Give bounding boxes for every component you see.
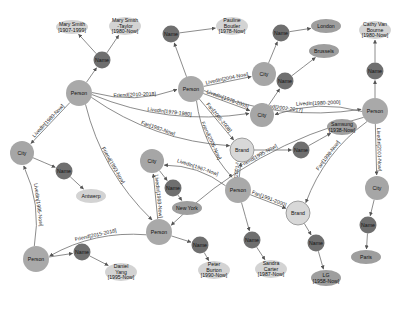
node-name-n1[interactable]: Name (94, 52, 111, 69)
value-label: Antwerp (81, 193, 100, 199)
edges-layer: Friend[2010-2018]LivedIn[1979-1980]Lived… (24, 28, 383, 269)
edge-label: LivedIn[1979-1980] (147, 106, 192, 117)
node-name-n4[interactable]: Name (277, 73, 294, 90)
edge-label: Friend[2010-2018] (113, 90, 156, 98)
name-label: Name (368, 68, 382, 74)
node-city-c1[interactable]: City (252, 62, 276, 86)
edge-n6-v7 (70, 177, 83, 189)
brand-label: Brand (235, 147, 249, 153)
value_dark-label: Samsung[1938-Now] (329, 121, 356, 133)
node-city-c3[interactable]: City (10, 141, 34, 165)
edge-line (24, 166, 37, 246)
name-label: Name (245, 237, 259, 243)
node-value-v7[interactable]: Antwerp (76, 189, 106, 203)
node-value-v2[interactable]: Mary Smith-Taylor[1980-Now] (109, 17, 141, 35)
edge-line (179, 28, 215, 33)
node-name-n11[interactable]: Name (244, 232, 261, 249)
edge-n2-v3 (179, 28, 215, 33)
edge-label: Fan[1982-Now] (141, 119, 177, 137)
node-brand-b2[interactable]: Brand (286, 201, 310, 225)
edge-label: Friend[1993-Now] (101, 146, 127, 185)
edge-c1-n3 (269, 42, 278, 63)
name-label: Name (361, 222, 375, 228)
city-label: City (260, 71, 269, 77)
node-city-c2[interactable]: City (250, 103, 274, 127)
city-label: City (18, 150, 27, 156)
edge-line (50, 234, 147, 256)
node-person-p1[interactable]: Person (66, 80, 92, 106)
node-name-n5[interactable]: Name (367, 63, 384, 80)
node-city-c5[interactable]: City (365, 176, 389, 200)
node-name-n7[interactable]: Name (293, 142, 310, 159)
value-label: Mary Smith[1907-1999] (58, 21, 86, 33)
edge-line (292, 58, 316, 76)
node-city-c4[interactable]: City (140, 149, 164, 173)
node-name-n10[interactable]: Name (192, 237, 209, 254)
edge-label: LivedIn[1980-2000] (296, 99, 341, 107)
edge-n12-v13 (318, 251, 323, 269)
node-brand-b1[interactable]: Brand (230, 138, 254, 162)
edge-n13-v14 (90, 256, 109, 266)
edge-p4-n11 (242, 203, 250, 231)
node-value-v12[interactable]: SandraCarter[1987-Now] (255, 260, 287, 278)
node-name-n8[interactable]: Name (165, 180, 182, 197)
node-value-v3[interactable]: PaulineBoutler[1978-Now] (216, 17, 248, 35)
edge-n3-v4 (289, 28, 310, 31)
edge-label: Fan[1998-Now] (315, 139, 341, 171)
edge-label: Friend[2015-2018] (74, 227, 117, 242)
node-person-p2[interactable]: Person (178, 76, 204, 102)
edge-label: LivedIn[2001-Now] (376, 128, 383, 172)
node-value_dark-v10[interactable]: Paris (351, 250, 381, 264)
edge-line (107, 35, 119, 53)
node-value-v14[interactable]: DanielYang[1995-Now] (105, 263, 137, 281)
node-name-n3[interactable]: Name (273, 25, 290, 42)
node-person-p5[interactable]: Person (146, 219, 172, 245)
city-label: City (258, 112, 267, 118)
edge-line (304, 223, 311, 235)
name-label: Name (75, 249, 89, 255)
name-label: Name (166, 185, 180, 191)
node-value-v1[interactable]: Mary Smith[1907-1999] (56, 20, 88, 34)
edge-line (289, 28, 310, 31)
edge-line (257, 247, 265, 260)
person-label: Person (367, 108, 384, 114)
node-value_dark-v5[interactable]: Brussels (309, 44, 339, 58)
edge-p6-n13 (49, 253, 73, 257)
node-value_dark-v9[interactable]: New York (172, 201, 202, 215)
value_dark-label: Paris (360, 254, 372, 260)
node-value-v6[interactable]: Cathy VanBourne[1980-Now] (359, 21, 391, 39)
node-value_dark-v8[interactable]: Samsung[1938-Now] (327, 119, 357, 135)
node-name-n12[interactable]: Name (308, 235, 325, 252)
person-label: Person (28, 256, 45, 262)
edge-line (86, 68, 96, 83)
edge-line (79, 34, 97, 53)
edge-line (178, 195, 182, 201)
edge-line (174, 43, 186, 77)
node-value_dark-v13[interactable]: LG[1958-Now] (311, 270, 341, 286)
node-person-p6[interactable]: Person (23, 246, 49, 272)
node-name-n6[interactable]: Name (56, 163, 73, 180)
edge-line (269, 42, 278, 63)
edge-line (370, 200, 374, 216)
edge-line (171, 236, 191, 242)
edge-c3-n6 (33, 158, 55, 168)
name-label: Name (274, 30, 288, 36)
brand-label: Brand (291, 210, 305, 216)
edge-n11-v12 (257, 247, 265, 260)
node-value-v11[interactable]: PeterBurton[1990-Now] (198, 261, 230, 279)
value_dark-label: Brussels (314, 48, 334, 54)
edge-label: LivedIn[1995-Now] (33, 183, 45, 227)
edge-p1-p2: Friend[2010-2018] (92, 89, 177, 97)
node-name-n9[interactable]: Name (360, 217, 377, 234)
edge-line (90, 256, 109, 266)
edge-p5-n10 (171, 236, 191, 242)
node-name-n2[interactable]: Name (163, 26, 180, 43)
node-value_dark-v4[interactable]: London (311, 19, 341, 33)
edge-b2-n12 (304, 223, 311, 235)
edge-n9-v10 (366, 233, 367, 249)
edge-p5-p6: Friend[2015-2018] (50, 227, 147, 256)
node-person-p4[interactable]: Person (225, 177, 251, 203)
name-label: Name (193, 242, 207, 248)
node-name-n13[interactable]: Name (74, 244, 91, 261)
node-person-p3[interactable]: Person (362, 98, 388, 124)
